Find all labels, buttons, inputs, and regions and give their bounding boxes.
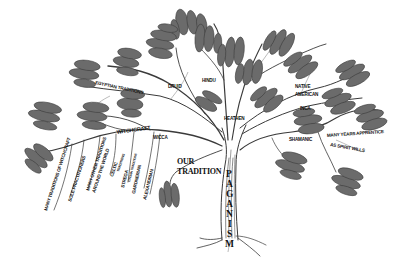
label-sole-practitioners: SOLE PRACTITIONERS	[67, 155, 87, 202]
leaf-cluster	[328, 164, 365, 198]
label-native-american-1: NATIVE	[295, 84, 310, 89]
leaf-cluster	[321, 84, 357, 118]
trunk-letter: P	[226, 169, 232, 179]
label-wicca: WICCA	[153, 135, 168, 140]
label-celtic-traditions: TRADITIONS	[116, 152, 126, 172]
trunk-letter: G	[226, 189, 234, 199]
label-many-years-apprentice: MANY YEARS APPRENTICE	[327, 129, 384, 138]
leaf-cluster	[144, 21, 179, 61]
leaf-cluster	[193, 87, 224, 115]
trunk-letter: S	[227, 229, 232, 239]
leaf-cluster	[158, 180, 181, 209]
trunk-letter: N	[226, 209, 233, 219]
label-egyptian-traditions: EGYPTIAN TRADITIONS	[95, 80, 144, 95]
label-as-spirit-wills: AS SPIRIT WILLS	[330, 142, 365, 153]
label-inca: INCA	[300, 106, 311, 111]
trunk-letter: M	[225, 239, 234, 249]
label-druid: DRUID	[168, 84, 182, 89]
label-hindu: HINDU	[202, 78, 216, 83]
label-tradition: TRADITION	[177, 167, 222, 176]
leaf-cluster	[272, 148, 308, 181]
leaf-cluster	[26, 99, 63, 132]
trunk-letter: A	[226, 199, 233, 209]
leaf-cluster	[248, 80, 286, 118]
leaf-cluster	[111, 46, 142, 77]
trunk-letter: A	[226, 179, 233, 189]
leaf-cluster	[76, 101, 110, 131]
trunk-letter: I	[228, 219, 232, 229]
label-shamanic: SHAMANIC	[289, 137, 313, 142]
leaf-cluster	[334, 54, 372, 91]
label-our: OUR	[177, 157, 195, 166]
foliage	[18, 5, 389, 209]
paganism-tree-diagram: EGYPTIAN TRADITIONS DRUID HINDU HEATHEN …	[0, 0, 410, 272]
trunk-title-paganism: P A G A N I S M	[225, 169, 234, 249]
label-alexandrian: ALEXANDRIAN	[142, 168, 155, 200]
label-heathen: HEATHEN	[224, 116, 245, 121]
leaf-cluster	[18, 138, 56, 176]
label-native-american-2: AMERICAN	[295, 92, 319, 97]
